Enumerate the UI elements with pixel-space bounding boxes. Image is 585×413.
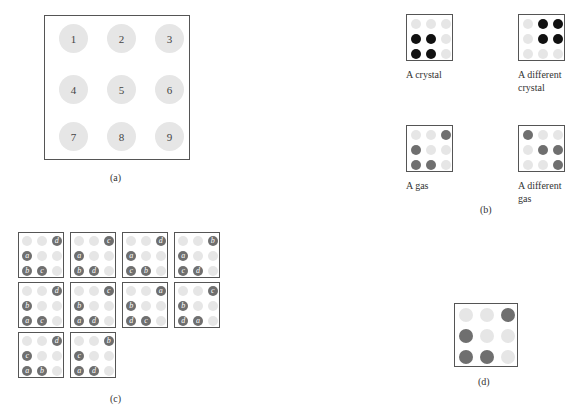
molecule-site-8: c	[37, 266, 47, 276]
empty-site-6	[441, 145, 451, 155]
molecule-letter: c	[182, 267, 186, 275]
molecule-letter: c	[107, 237, 111, 245]
empty-site-5	[37, 251, 47, 261]
molecule-site-3	[441, 130, 451, 140]
molecule-site-8: d	[89, 366, 99, 376]
site-4: 4	[59, 75, 88, 104]
panel-b-state-2	[518, 14, 565, 61]
empty-site-9	[104, 366, 114, 376]
panel-c-arrangement-6: cbad	[70, 282, 116, 328]
site-number: 9	[167, 131, 173, 143]
molecule-site-5	[538, 145, 548, 155]
panel-a-lattice-box: 1 2 3 4 5 6 7 8 9	[44, 15, 190, 160]
molecule-site-7: a	[74, 316, 84, 326]
empty-site-2	[37, 336, 47, 346]
molecule-site-3: b	[104, 336, 114, 346]
site-number: 1	[71, 33, 77, 45]
molecule-letter: b	[107, 337, 111, 345]
molecule-site-3	[501, 308, 515, 322]
empty-site-2	[426, 130, 436, 140]
empty-site-1	[178, 286, 188, 296]
molecule-site-4: a	[74, 251, 84, 261]
site-number: 5	[119, 84, 125, 96]
empty-site-6	[441, 34, 451, 44]
site-2: 2	[107, 24, 136, 53]
empty-site-9	[52, 266, 62, 276]
molecule-site-8: c	[37, 316, 47, 326]
molecule-letter: a	[77, 367, 81, 375]
empty-site-1	[411, 130, 421, 140]
panel-c-arrangement-2: cabd	[70, 232, 116, 278]
empty-site-9	[104, 316, 114, 326]
different-crystal-label-line2: crystal	[518, 81, 545, 94]
site-number: 3	[167, 33, 173, 45]
empty-site-2	[538, 130, 548, 140]
molecule-letter: d	[129, 317, 133, 325]
molecule-letter: d	[159, 237, 163, 245]
molecule-letter: b	[25, 302, 29, 310]
molecule-site-3: c	[104, 286, 114, 296]
empty-site-2	[193, 286, 203, 296]
molecule-site-7	[411, 160, 421, 170]
molecule-letter: a	[77, 317, 81, 325]
molecule-site-7: c	[178, 266, 188, 276]
panel-c-arrangement-8: cbda	[174, 282, 220, 328]
molecule-site-8	[426, 160, 436, 170]
different-gas-label-line2: gas	[518, 192, 531, 205]
empty-site-5	[193, 301, 203, 311]
site-7: 7	[59, 122, 88, 151]
empty-site-4	[523, 34, 533, 44]
molecule-letter: b	[77, 302, 81, 310]
molecule-letter: a	[159, 287, 163, 295]
molecule-letter: b	[40, 367, 44, 375]
molecule-letter: c	[107, 287, 111, 295]
empty-site-1	[411, 19, 421, 29]
molecule-site-7	[411, 49, 421, 59]
site-8: 8	[107, 122, 136, 151]
molecule-site-4	[459, 329, 473, 343]
empty-site-6	[208, 251, 218, 261]
empty-site-1	[74, 336, 84, 346]
panel-c-arrangement-7: abdc	[122, 282, 168, 328]
molecule-letter: c	[78, 352, 82, 360]
empty-site-6	[52, 301, 62, 311]
molecule-letter: a	[77, 252, 81, 260]
empty-site-9	[208, 266, 218, 276]
empty-site-9	[501, 350, 515, 364]
empty-site-8	[538, 160, 548, 170]
site-6: 6	[155, 75, 184, 104]
molecule-site-5	[426, 34, 436, 44]
molecule-site-4: a	[126, 251, 136, 261]
molecule-letter: b	[211, 237, 215, 245]
empty-site-2	[141, 286, 151, 296]
empty-site-2	[89, 236, 99, 246]
empty-site-5	[89, 301, 99, 311]
molecule-site-8	[426, 49, 436, 59]
empty-site-9	[208, 316, 218, 326]
molecule-letter: c	[40, 267, 44, 275]
molecule-site-4: a	[178, 251, 188, 261]
molecule-letter: c	[26, 352, 30, 360]
empty-site-2	[480, 308, 494, 322]
molecule-site-8: d	[193, 266, 203, 276]
panel-b-caption: (b)	[480, 204, 492, 215]
empty-site-5	[37, 301, 47, 311]
empty-site-4	[523, 145, 533, 155]
molecule-site-7: a	[74, 366, 84, 376]
molecule-site-3: c	[104, 236, 114, 246]
panel-b-state-3	[406, 125, 453, 172]
empty-site-2	[193, 236, 203, 246]
empty-site-5	[193, 251, 203, 261]
panel-c-arrangement-3: dacb	[122, 232, 168, 278]
panel-b-state-1	[406, 14, 453, 61]
molecule-site-3: c	[208, 286, 218, 296]
molecule-letter: a	[25, 317, 29, 325]
empty-site-1	[126, 236, 136, 246]
empty-site-6	[52, 351, 62, 361]
empty-site-5	[89, 351, 99, 361]
molecule-site-4: b	[126, 301, 136, 311]
empty-site-1	[74, 286, 84, 296]
empty-site-1	[126, 286, 136, 296]
empty-site-1	[74, 236, 84, 246]
molecule-letter: a	[25, 367, 29, 375]
